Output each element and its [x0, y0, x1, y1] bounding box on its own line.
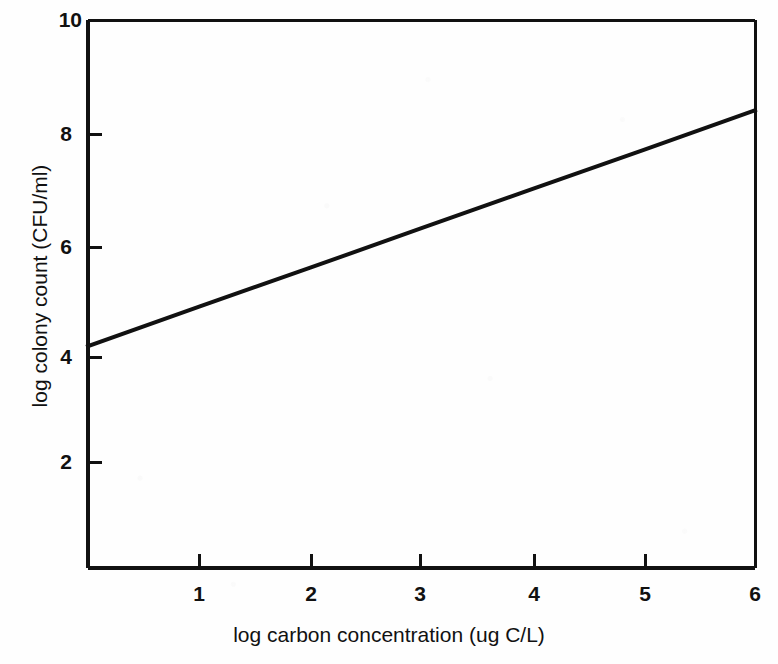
x-tick-label-4: 4	[514, 583, 554, 604]
x-tick-label-1: 1	[179, 583, 219, 604]
y-axis-ticks	[88, 134, 102, 462]
plot-area	[0, 0, 778, 664]
axis-frame	[88, 20, 755, 568]
y-tick-label-10: 10	[28, 9, 82, 30]
x-axis-ticks	[199, 554, 645, 568]
data-series-line	[88, 110, 755, 346]
x-axis-title: log carbon concentration (ug C/L)	[0, 623, 778, 647]
x-tick-label-3: 3	[400, 583, 440, 604]
y-axis-title: log colony count (CFU/ml)	[28, 136, 52, 436]
chart-figure: 10 8 6 4 2 1 2 3 4 5 6 log carbon concen…	[0, 0, 778, 664]
x-tick-label-5: 5	[625, 583, 665, 604]
y-tick-label-2: 2	[28, 451, 72, 472]
x-tick-label-6: 6	[735, 583, 775, 604]
x-tick-label-2: 2	[291, 583, 331, 604]
